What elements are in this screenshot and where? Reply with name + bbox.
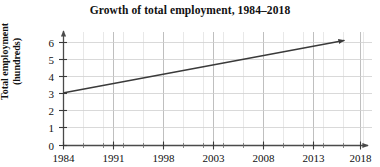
y-tick-label-6: 6 [49, 37, 55, 49]
y-tick-label-5: 5 [49, 54, 55, 66]
x-tick-label-2003: 2003 [203, 152, 226, 164]
x-tick-label-2013: 2013 [303, 152, 326, 164]
x-tick-labels: 1984 1991 1998 2003 2008 2013 2018 [53, 152, 373, 164]
y-tick-label-3: 3 [49, 88, 55, 100]
y-tick-label-1: 1 [49, 122, 55, 134]
x-tick-label-2018: 2018 [350, 152, 373, 164]
y-tick-label-2: 2 [49, 105, 55, 117]
grid-minor-vertical [84, 32, 364, 145]
x-tick-label-1991: 1991 [103, 152, 125, 164]
x-tick-label-2008: 2008 [253, 152, 276, 164]
x-tick-label-1984: 1984 [53, 152, 76, 164]
x-tick-label-1998: 1998 [153, 152, 176, 164]
y-tick-label-0: 0 [49, 140, 55, 152]
plot-area: 6 5 4 3 2 1 0 1984 1991 1998 2003 2008 2… [0, 0, 380, 167]
y-tick-labels: 6 5 4 3 2 1 0 [49, 37, 55, 152]
grid-major-vertical [64, 32, 361, 145]
chart-figure: Growth of total employment, 1984–2018 To… [0, 0, 380, 167]
y-tick-label-4: 4 [49, 71, 55, 83]
trend-line-series [64, 41, 344, 93]
grid-horizontal [64, 43, 373, 128]
